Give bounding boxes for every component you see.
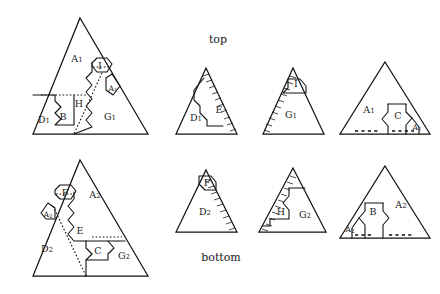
label-a2-small-bottom: A2 xyxy=(42,210,52,219)
figure-root: A1 I A1 H B D1 G1 F A2 A2 xyxy=(0,0,440,294)
label-f-piece: F xyxy=(204,177,211,188)
piece-triangle-f-d2: F D2 xyxy=(176,170,237,232)
piece-triangle-a1-c-a1: A1 C A1 xyxy=(340,62,430,134)
label-e-piece: E xyxy=(216,104,223,115)
label-h-top: H xyxy=(75,98,83,109)
main-top-triangle-outline xyxy=(33,18,148,134)
label-f-bottom: F xyxy=(62,187,69,198)
piece-triangle-h-g2: H G2 xyxy=(259,168,326,232)
piece-h-g2-outline xyxy=(259,168,326,232)
label-i-top: I xyxy=(98,60,102,71)
label-b-top: B xyxy=(60,111,67,122)
label-e-bottom: E xyxy=(77,225,84,236)
label-b-piece: B xyxy=(370,206,377,217)
label-c-piece: C xyxy=(394,110,401,121)
caption-bottom: bottom xyxy=(201,251,241,264)
label-i-piece: I xyxy=(294,78,298,89)
main-bottom-triangle: F A2 A2 E D2 C G2 xyxy=(33,160,148,276)
piece-triangle-i-g1: I G1 xyxy=(263,68,324,134)
caption-top: top xyxy=(209,33,227,46)
triangle-decomposition-figure: A1 I A1 H B D1 G1 F A2 A2 xyxy=(0,0,440,294)
label-c-bottom: C xyxy=(94,245,101,256)
label-h-piece: H xyxy=(277,206,285,217)
main-top-triangle: A1 I A1 H B D1 G1 xyxy=(33,18,148,134)
piece-triangle-d1-e: D1 E xyxy=(176,68,237,134)
label-a2-bottom: A2 xyxy=(88,189,100,201)
piece-triangle-a2-b-a2: A2 B A2 xyxy=(340,166,430,238)
